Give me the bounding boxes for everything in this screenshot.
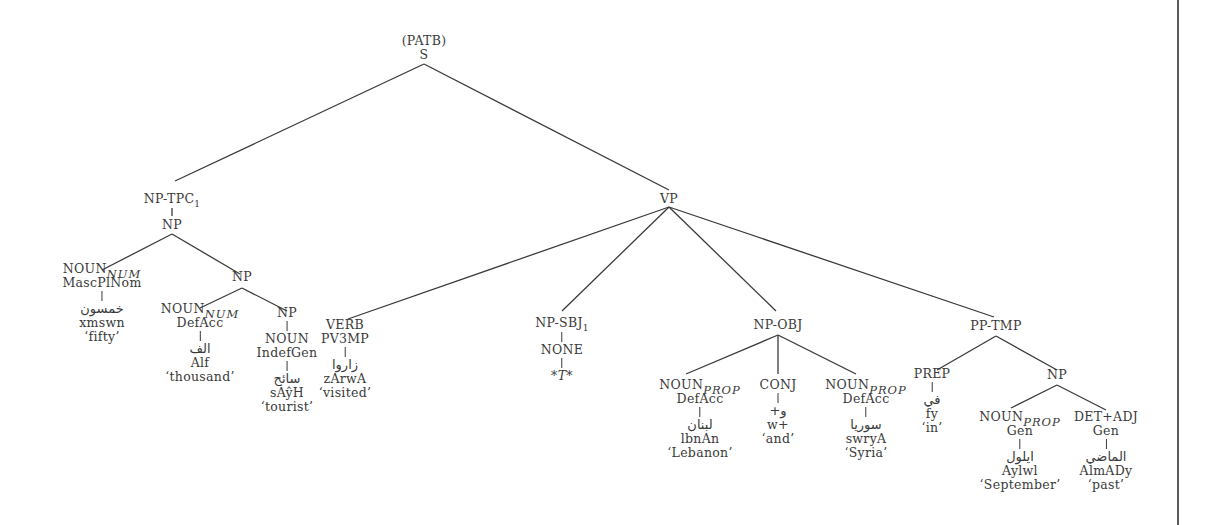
leaf-in: PREP في fy ‘in’: [914, 367, 951, 435]
transliteration: AlmADy: [1074, 464, 1138, 478]
node-np-tpc-child: NP: [162, 218, 182, 232]
edge-tick: [1106, 439, 1107, 449]
pos-label: VERB: [319, 318, 372, 332]
edge-tick: [344, 347, 345, 357]
arabic-word: الف: [161, 342, 239, 356]
gloss: ‘Lebanon’: [659, 446, 740, 460]
gloss: ‘thousand’: [161, 370, 239, 384]
node-np-tpc: NP-TPC1: [144, 192, 201, 207]
gloss: ‘in’: [914, 421, 951, 435]
transliteration: Aylwl: [979, 464, 1060, 478]
node-label: VP: [660, 191, 678, 206]
pos-label: NOUN: [825, 377, 869, 392]
gloss: ‘past’: [1074, 478, 1138, 492]
page-margin-rule: [1177, 0, 1179, 525]
node-np-inner: NP: [232, 270, 252, 284]
edge-tick: [102, 291, 103, 301]
pos-label: NOUN: [979, 409, 1023, 424]
pos-label: DET+ADJ: [1074, 410, 1138, 424]
transliteration: swryA: [825, 432, 906, 446]
transliteration: zArwA: [319, 372, 372, 386]
edge-tick: [932, 382, 933, 392]
transliteration: Alf: [161, 356, 239, 370]
features: IndefGen: [257, 346, 318, 360]
pos-subtype: PROP: [1023, 415, 1061, 429]
gloss: ‘fifty’: [62, 330, 141, 344]
edge-tick: [199, 331, 200, 341]
transliteration: xmswn: [62, 316, 141, 330]
node-vp: VP: [660, 192, 678, 206]
pos-subtype: PROP: [869, 383, 907, 397]
arabic-word: في: [914, 393, 951, 407]
node-label: NP-OBJ: [753, 317, 802, 332]
none-label: NONE: [535, 343, 588, 357]
trace: *T*: [535, 369, 588, 383]
pos-subtype: NUM: [205, 307, 240, 321]
pos-label: NOUN: [63, 261, 107, 276]
transliteration: lbnAn: [659, 432, 740, 446]
leaf-tourist: NP NOUN IndefGen سائح sAŷH ‘tourist’: [257, 306, 318, 414]
gloss: ‘tourist’: [257, 400, 318, 414]
pos-label: PREP: [914, 367, 951, 381]
node-np-obj: NP-OBJ: [753, 318, 802, 332]
edge-tick: [286, 361, 287, 371]
node-label: NP: [257, 306, 318, 320]
pos-label: NOUN: [161, 301, 205, 316]
gloss: ‘visited’: [319, 386, 372, 400]
leaf-thousand: NOUNNUM DefAcc الف Alf ‘thousand’: [161, 302, 239, 384]
edge-tick: [778, 393, 779, 403]
edge-tick: [561, 358, 562, 368]
node-np-sbj: NP-SBJ1 NONE *T*: [535, 316, 588, 383]
leaf-september: NOUNPROP Gen ايلول Aylwl ‘September’: [979, 410, 1060, 492]
node-label: NP: [1047, 367, 1067, 382]
node-label: NP: [232, 269, 252, 284]
node-pp-tmp: PP-TMP: [970, 319, 1021, 333]
pos-label: CONJ: [760, 378, 797, 392]
arabic-word: سوريا: [825, 418, 906, 432]
leaf-and: CONJ و+ w+ ‘and’: [760, 378, 797, 446]
features: Gen: [1074, 424, 1138, 438]
edge-tick: [561, 332, 562, 342]
pos-subtype: PROP: [703, 383, 741, 397]
node-np-pp: NP: [1047, 368, 1067, 382]
node-label: NP-SBJ: [535, 315, 582, 330]
pos-subtype: NUM: [107, 267, 142, 281]
transliteration: w+: [760, 418, 797, 432]
arabic-word: ايلول: [979, 450, 1060, 464]
leaf-visited: VERB PV3MP زاروا zArwA ‘visited’: [319, 318, 372, 400]
arabic-word: سائح: [257, 372, 318, 386]
arabic-word: و+: [760, 404, 797, 418]
edge-tick: [1019, 439, 1020, 449]
gloss: ‘and’: [760, 432, 797, 446]
node-label: PP-TMP: [970, 318, 1021, 333]
leaf-fifty: NOUNNUM MascPlNom خمسون xmswn ‘fifty’: [62, 262, 141, 344]
tree-root: (PATB) S: [402, 34, 447, 62]
root-label: S: [402, 48, 447, 62]
edge-tick: [865, 407, 866, 417]
pos-label: NOUN: [659, 377, 703, 392]
arabic-word: الماضي: [1074, 450, 1138, 464]
leaf-syria: NOUNPROP DefAcc سوريا swryA ‘Syria’: [825, 378, 906, 460]
transliteration: fy: [914, 407, 951, 421]
arabic-word: لبنان: [659, 418, 740, 432]
leaf-lebanon: NOUNPROP DefAcc لبنان lbnAn ‘Lebanon’: [659, 378, 740, 460]
arabic-word: زاروا: [319, 358, 372, 372]
gloss: ‘Syria’: [825, 446, 906, 460]
leaf-past: DET+ADJ Gen الماضي AlmADy ‘past’: [1074, 410, 1138, 492]
node-label: NP: [162, 217, 182, 232]
gloss: ‘September’: [979, 478, 1060, 492]
root-annotation: (PATB): [402, 34, 447, 48]
features: PV3MP: [319, 332, 372, 346]
edge-tick: [286, 321, 287, 331]
node-label: NP-TPC: [144, 191, 195, 206]
transliteration: sAŷH: [257, 386, 318, 400]
node-index: 1: [194, 199, 200, 209]
arabic-word: خمسون: [62, 302, 141, 316]
edge-tick: [699, 407, 700, 417]
pos-label: NOUN: [257, 332, 318, 346]
node-index: 1: [583, 323, 589, 333]
